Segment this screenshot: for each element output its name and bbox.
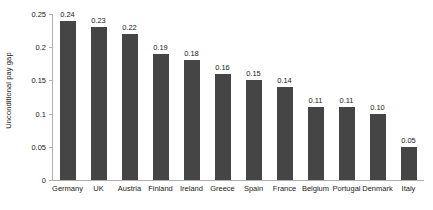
y-tick-label: 0.2	[36, 43, 46, 52]
y-axis-line	[52, 14, 53, 180]
bar-value-label: 0.14	[277, 76, 292, 85]
bar	[277, 87, 293, 180]
y-tick-label: 0.15	[31, 76, 46, 85]
bar	[215, 74, 231, 180]
y-tick-label: 0.1	[36, 109, 46, 118]
bar	[370, 114, 386, 180]
x-axis-category-label: Ireland	[180, 184, 203, 193]
y-tick-mark	[49, 80, 53, 81]
y-axis-title-text: Unconditional pay gap	[4, 52, 13, 128]
bar	[246, 80, 262, 180]
bar-value-label: 0.19	[153, 43, 168, 52]
y-tick-label: 0	[42, 176, 46, 185]
bar	[122, 34, 138, 180]
bar-chart: Unconditional pay gap 00.050.10.150.20.2…	[0, 0, 433, 210]
bar	[91, 27, 107, 180]
bar	[308, 107, 324, 180]
bar	[60, 21, 76, 180]
bar-value-label: 0.23	[91, 16, 106, 25]
x-axis-category-label: Finland	[148, 184, 173, 193]
x-axis-category-label: Germany	[52, 184, 83, 193]
bar-value-label: 0.15	[246, 69, 261, 78]
bar-value-label: 0.22	[122, 23, 137, 32]
y-tick-label: 0.05	[31, 142, 46, 151]
bar-value-label: 0.18	[184, 49, 199, 58]
x-axis-category-label: Spain	[244, 184, 263, 193]
bar-value-label: 0.24	[60, 10, 75, 19]
x-axis-category-label: Greece	[210, 184, 235, 193]
x-axis-category-label: UK	[93, 184, 103, 193]
x-axis-category-label: Austria	[118, 184, 141, 193]
bar-value-label: 0.11	[308, 96, 322, 105]
y-tick-mark	[49, 114, 53, 115]
x-axis-line	[52, 180, 424, 181]
bar-value-label: 0.16	[215, 63, 230, 72]
y-tick-mark	[49, 47, 53, 48]
bar	[401, 147, 417, 180]
y-tick-label: 0.25	[31, 10, 46, 19]
x-axis-category-label: Italy	[402, 184, 416, 193]
x-axis-category-label: Portugal	[333, 184, 361, 193]
x-axis-category-label: Denmark	[362, 184, 392, 193]
x-axis-category-label: France	[273, 184, 296, 193]
bar	[339, 107, 355, 180]
y-axis-title: Unconditional pay gap	[0, 0, 16, 180]
bar	[184, 60, 200, 180]
y-tick-mark	[49, 180, 53, 181]
bar	[153, 54, 169, 180]
y-axis-tick-labels: 00.050.10.150.20.25	[16, 0, 46, 210]
y-tick-mark	[49, 14, 53, 15]
bar-value-label: 0.05	[401, 136, 416, 145]
bar-value-label: 0.10	[370, 103, 385, 112]
x-axis-category-label: Belgium	[302, 184, 329, 193]
bar-value-label: 0.11	[339, 96, 353, 105]
y-tick-mark	[49, 147, 53, 148]
